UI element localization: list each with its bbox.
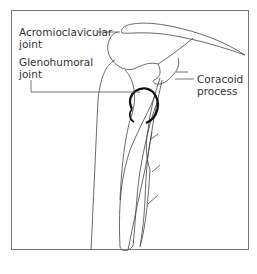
label-glenohumoral-joint: Glenohumoral joint bbox=[19, 56, 93, 80]
label-acromioclavicular-joint: Acromioclavicular joint bbox=[19, 26, 112, 50]
label-coracoid-process: Coracoid process bbox=[197, 73, 243, 97]
